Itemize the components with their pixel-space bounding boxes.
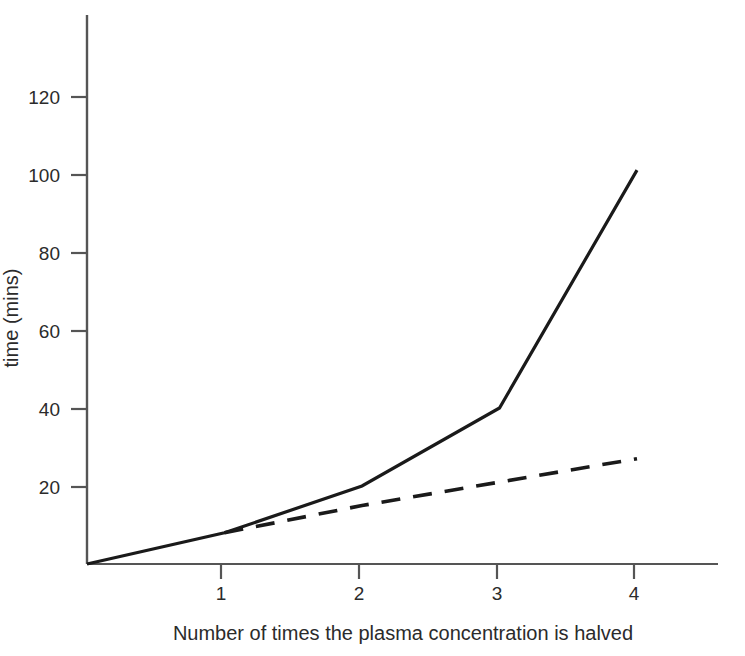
- y-tick-label-100: 100: [28, 165, 60, 186]
- y-tick-label-40: 40: [39, 399, 60, 420]
- y-tick-label-80: 80: [39, 243, 60, 264]
- x-tick-label-4: 4: [629, 583, 640, 604]
- x-axis-title: Number of times the plasma concentration…: [173, 622, 633, 644]
- x-tick-label-3: 3: [492, 583, 503, 604]
- line-chart-svg: 20 40 60 80 100 120 1 2 3 4 Number of ti…: [0, 0, 745, 656]
- chart-figure: 20 40 60 80 100 120 1 2 3 4 Number of ti…: [0, 0, 745, 656]
- y-tick-label-20: 20: [39, 477, 60, 498]
- y-tick-label-120: 120: [28, 87, 60, 108]
- y-tick-label-60: 60: [39, 321, 60, 342]
- y-axis-title: time (mins): [0, 269, 22, 368]
- x-tick-label-2: 2: [354, 583, 365, 604]
- x-tick-label-1: 1: [216, 583, 227, 604]
